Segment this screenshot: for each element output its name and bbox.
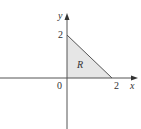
region-label: R <box>76 59 83 70</box>
region-diagram: y 2 R 0 2 x <box>0 0 141 129</box>
origin-label: 0 <box>57 80 62 91</box>
y-axis-arrow-icon <box>65 13 70 20</box>
y-axis-label: y <box>57 10 63 21</box>
x-axis-label: x <box>129 80 135 91</box>
y-tick-label: 2 <box>58 29 63 40</box>
x-tick-label: 2 <box>114 80 119 91</box>
